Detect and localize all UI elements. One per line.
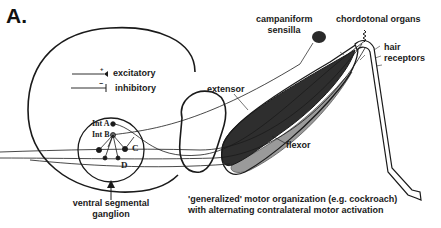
coxa-outline xyxy=(180,91,226,172)
campaniform-label: campaniform sensilla xyxy=(256,14,312,36)
ganglion-label-line2: ganglion xyxy=(72,209,150,220)
campaniform-label-line2: sensilla xyxy=(256,25,312,36)
neuron-label-c: C xyxy=(132,143,139,153)
flexor-label: flexor xyxy=(286,140,311,151)
extensor-label: extensor xyxy=(207,84,245,95)
legend-inhibitory-label: inhibitory xyxy=(115,83,156,94)
caption-line1: 'generalized' motor organization (e.g. c… xyxy=(188,194,397,205)
caption: 'generalized' motor organization (e.g. c… xyxy=(188,194,397,216)
ganglion-arrow xyxy=(107,180,115,200)
panel-label: A. xyxy=(6,4,27,28)
hair-label-line1: hair xyxy=(384,42,425,53)
chordotonal-label: chordotonal organs xyxy=(336,14,421,25)
legend-excitatory-label: excitatory xyxy=(113,68,156,79)
body-outline xyxy=(28,28,195,192)
ganglion-label-line1: ventral segmental xyxy=(72,198,150,209)
inhibitory-sign: − xyxy=(99,78,103,89)
neuron-label-int-b: Int B xyxy=(92,130,110,139)
neuron-label-d: D xyxy=(121,160,128,170)
ganglion-label: ventral segmental ganglion xyxy=(72,198,150,220)
hair-label-line2: receptors xyxy=(384,53,425,64)
tibia xyxy=(355,41,421,200)
hair-receptors-label: hair receptors xyxy=(384,42,425,64)
excitatory-sign: + xyxy=(100,64,104,75)
caption-line2: with alternating contralateral motor act… xyxy=(188,205,397,216)
campaniform-label-line1: campaniform xyxy=(256,14,312,25)
campaniform-sensilla xyxy=(312,31,326,43)
neuron-label-int-a: Int A xyxy=(92,119,110,128)
